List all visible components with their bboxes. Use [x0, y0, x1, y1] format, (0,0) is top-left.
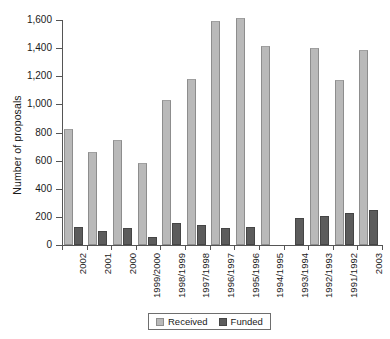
- bar-group: [333, 20, 358, 245]
- x-axis-tick: [284, 245, 285, 250]
- bar-received: [359, 50, 368, 245]
- x-axis-tick: [185, 245, 186, 250]
- bar-funded: [172, 223, 181, 245]
- y-axis-tick-label: 1,600: [0, 15, 52, 25]
- y-axis-tick-label: 600: [0, 156, 52, 166]
- bar-group: [259, 20, 284, 245]
- x-axis-label: 2000: [128, 253, 138, 274]
- legend-swatch-received: [156, 318, 164, 326]
- bar-funded: [345, 213, 354, 245]
- x-axis-label: 1996/1997: [226, 253, 236, 298]
- legend-label: Received: [168, 317, 208, 327]
- bar-group: [62, 20, 87, 245]
- x-axis-label: 1995/1996: [251, 253, 261, 298]
- x-axis-tick: [87, 245, 88, 250]
- legend-item: Received: [156, 317, 208, 327]
- x-axis-label: 2001: [103, 253, 113, 274]
- legend-label: Funded: [231, 317, 263, 327]
- bar-group: [136, 20, 161, 245]
- bar-received: [310, 48, 319, 245]
- bar-group: [234, 20, 259, 245]
- bar-received: [138, 163, 147, 245]
- x-axis-label: 1992/1993: [324, 253, 334, 298]
- y-axis-tick-label: 400: [0, 184, 52, 194]
- bar-funded: [74, 227, 83, 245]
- x-axis-label: 1997/1998: [201, 253, 211, 298]
- bar-received: [236, 18, 245, 245]
- bar-funded: [369, 210, 378, 245]
- bar-funded: [148, 237, 157, 245]
- y-axis-title: Number of proposals: [11, 55, 23, 235]
- bar-received: [162, 100, 171, 245]
- x-axis-tick: [111, 245, 112, 250]
- bar-funded: [98, 231, 107, 245]
- x-axis-tick: [160, 245, 161, 250]
- bar-group: [160, 20, 185, 245]
- bar-funded: [320, 216, 329, 245]
- bar-received: [88, 152, 97, 245]
- bar-group: [185, 20, 210, 245]
- x-axis-tick: [234, 245, 235, 250]
- bar-received: [187, 79, 196, 245]
- y-axis-tick-label: 1,400: [0, 43, 52, 53]
- legend-swatch-funded: [219, 318, 227, 326]
- bar-received: [64, 129, 73, 245]
- x-axis-label: 2003: [374, 253, 384, 274]
- x-axis-tick: [62, 245, 63, 250]
- bar-group: [210, 20, 235, 245]
- x-axis-label: 2002: [78, 253, 88, 274]
- bar-funded: [123, 228, 132, 245]
- x-axis-label: 1993/1994: [300, 253, 310, 298]
- legend-item: Funded: [219, 317, 263, 327]
- y-axis-tick-label: 200: [0, 212, 52, 222]
- bar-group: [308, 20, 333, 245]
- bar-funded: [246, 227, 255, 245]
- x-axis-tick: [333, 245, 334, 250]
- x-axis-tick: [136, 245, 137, 250]
- y-axis-tick-label: 800: [0, 128, 52, 138]
- x-axis-label: 1994/1995: [275, 253, 285, 298]
- bar-received: [113, 140, 122, 245]
- bar-group: [87, 20, 112, 245]
- x-axis-tick: [382, 245, 383, 250]
- x-axis-label: 1991/1992: [349, 253, 359, 298]
- x-axis-line: [62, 245, 382, 246]
- x-axis-tick: [308, 245, 309, 250]
- x-axis-tick: [259, 245, 260, 250]
- bars-layer: [62, 20, 382, 245]
- bar-received: [211, 21, 220, 245]
- bar-group: [284, 20, 309, 245]
- legend: ReceivedFunded: [148, 313, 271, 330]
- x-axis-label: 1998/1999: [177, 253, 187, 298]
- bar-received: [261, 46, 270, 245]
- bar-group: [357, 20, 382, 245]
- x-axis-tick: [357, 245, 358, 250]
- bar-funded: [295, 218, 304, 245]
- bar-funded: [221, 228, 230, 245]
- y-axis-tick-label: 1,200: [0, 71, 52, 81]
- bar-group: [111, 20, 136, 245]
- bar-chart: Number of proposals 02004006008001,0001,…: [0, 0, 390, 339]
- y-axis-tick-label: 0: [0, 240, 52, 250]
- x-axis-label: 1999/2000: [152, 253, 162, 298]
- y-axis-tick-label: 1,000: [0, 99, 52, 109]
- bar-funded: [197, 225, 206, 245]
- x-axis-tick: [210, 245, 211, 250]
- bar-received: [335, 80, 344, 245]
